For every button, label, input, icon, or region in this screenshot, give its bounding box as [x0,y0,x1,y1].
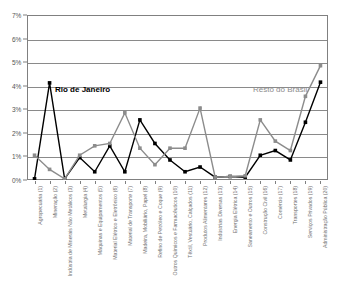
data-point-marker [48,81,52,85]
data-point-marker [138,146,142,150]
data-point-marker [258,153,262,157]
data-point-marker [258,118,262,122]
x-axis-tick-mark [275,181,276,184]
data-point-marker [78,153,82,157]
series-line [35,82,321,179]
x-axis-tick-label: Agropecuária (1) [37,186,43,225]
legend-label-rio-de-janeiro: Rio de Janeiro [55,85,110,94]
data-point-marker [289,149,293,153]
x-axis-tick-label: Construção Civil (16) [262,186,268,234]
x-axis-tick-mark [35,181,36,184]
series-rio-de-janeiro [33,80,323,180]
x-axis-tick-mark [80,181,81,184]
x-axis-tick-mark [230,181,231,184]
x-axis-tick-mark [245,181,246,184]
data-point-marker [274,139,278,143]
x-axis-tick-label: Máquinas e Equipamentos (5) [97,186,103,255]
x-axis-tick-label: Têxtil, Vestuário, Calçados (11) [187,186,193,258]
data-point-marker [319,80,323,84]
data-point-marker [168,146,172,150]
x-axis-labels: Agropecuária (1)Mineração (2)Indústria d… [27,181,328,288]
x-axis-tick-mark [110,181,111,184]
y-axis-tick-label: 5% [12,59,21,66]
x-axis-tick-label: Saneamento e Outros (15) [247,186,253,247]
x-axis-tick-mark [200,181,201,184]
data-point-marker [304,95,308,99]
data-point-marker [304,120,308,124]
x-axis-tick-mark [170,181,171,184]
data-point-marker [63,177,67,180]
data-point-marker [198,165,202,169]
data-point-marker [228,175,232,179]
x-axis-tick-mark [260,181,261,184]
data-point-marker [274,149,278,153]
x-axis-tick-label: Metalurgia (4) [82,186,88,218]
data-point-marker [183,170,187,174]
x-axis-tick-label: Refino de Petróleo e Coque (9) [157,186,163,258]
x-axis-tick-mark [65,181,66,184]
data-point-marker [123,170,127,174]
x-axis-tick-mark [320,181,321,184]
data-point-marker [168,158,172,162]
data-point-marker [243,174,247,178]
x-axis-tick-label: Mineração (2) [52,186,58,218]
data-point-marker [93,144,97,148]
y-axis-tick-label: 6% [12,35,21,42]
data-point-marker [153,163,157,167]
x-axis-tick-label: Madeira, Mobiliário, Papel (8) [142,186,148,254]
data-point-marker [289,158,293,162]
x-axis-tick-mark [185,181,186,184]
x-axis-tick-mark [140,181,141,184]
x-axis-tick-mark [215,181,216,184]
chart-container: 0%1%2%3%4%5%6%7% Agropecuária (1)Mineraç… [0,0,349,288]
x-axis-tick-mark [155,181,156,184]
y-axis: 0%1%2%3%4%5%6%7% [0,8,27,188]
x-axis-tick-label: Outros Químicos e Farmacêuticos (10) [172,186,178,275]
data-point-marker [138,118,142,122]
data-point-marker [48,168,52,172]
data-point-marker [319,64,323,68]
y-axis-tick-label: 1% [12,153,21,160]
y-axis-tick-label: 3% [12,106,21,113]
x-axis-tick-label: Indústrias Diversas (13) [217,186,223,241]
data-point-marker [183,146,187,150]
data-point-marker [93,170,97,174]
x-axis-tick-mark [290,181,291,184]
x-axis-tick-label: Material Elétrico e Eletrônico (6) [112,186,118,260]
x-axis-tick-mark [305,181,306,184]
chart-title-strip [0,0,349,7]
y-axis-tick-label: 0% [12,177,21,184]
data-point-marker [123,111,127,115]
x-axis-tick-label: Comércio (17) [277,186,283,219]
data-point-marker [33,153,37,157]
x-axis-tick-mark [95,181,96,184]
x-axis-tick-label: Material de Transporte (7) [127,186,133,246]
x-axis-tick-label: Energia Elétrica (14) [232,186,238,233]
x-axis-tick-label: Transportes (18) [292,186,298,224]
series-layer [27,15,328,180]
x-axis-tick-label: Produtos Alimentares (12) [202,186,208,246]
data-point-marker [153,142,157,146]
data-point-marker [213,175,217,179]
x-axis-tick-mark [125,181,126,184]
y-axis-tick-label: 7% [12,12,21,19]
data-point-marker [198,106,202,110]
data-point-marker [108,142,112,146]
data-point-marker [33,177,37,180]
x-axis-tick-label: Administração Pública (20) [322,186,328,248]
y-axis-tick-label: 2% [12,129,21,136]
legend-label-resto-do-brasil: Resto do Brasil [253,85,307,94]
x-axis-tick-label: Serviços Privados (19) [307,186,313,238]
x-axis-tick-mark [50,181,51,184]
y-axis-tick-label: 4% [12,82,21,89]
x-axis-tick-label: Indústria de Minerais Não Metálicos (3) [67,186,73,276]
